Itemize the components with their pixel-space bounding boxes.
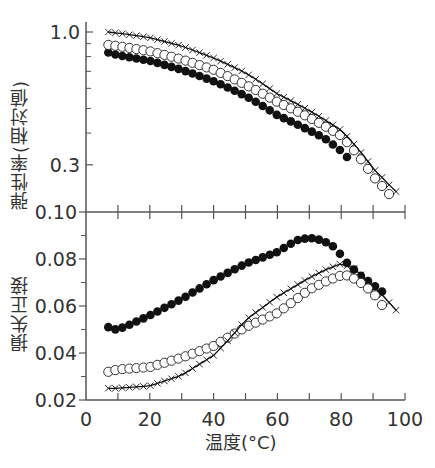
cross-marker [210, 352, 216, 358]
cross-marker [309, 273, 315, 279]
x-tick-label: 0 [80, 408, 92, 430]
cross-marker [253, 76, 259, 82]
filled-circle-marker [336, 146, 345, 155]
cross-marker [323, 266, 329, 272]
cross-marker [274, 294, 280, 300]
filled-circle-marker [329, 242, 338, 251]
cross-marker [260, 81, 266, 87]
cross-marker [245, 315, 251, 321]
top-panel-elastic-modulus [104, 29, 400, 199]
cross-marker [189, 47, 195, 53]
top-y-tick-label: 0.3 [50, 154, 80, 176]
cross-marker [253, 309, 259, 315]
open-circle-marker [363, 284, 372, 293]
cross-marker [393, 188, 399, 194]
bottom-y-tick-label: 0.04 [35, 342, 77, 364]
cross-marker [302, 277, 308, 283]
cross-marker [154, 380, 160, 386]
filled-circle-marker [322, 135, 331, 144]
x-tick-label: 40 [202, 408, 226, 430]
bottom-y-tick-label: 0.06 [35, 295, 77, 317]
axes: 0204060801001.00.30.100.080.060.040.02 [35, 21, 423, 430]
cross-marker [168, 376, 174, 382]
open-circle-marker [370, 174, 379, 183]
cross-marker [267, 299, 273, 305]
cross-marker [203, 357, 209, 363]
cross-marker [288, 286, 294, 292]
cross-marker [182, 370, 188, 376]
cross-marker [330, 264, 336, 270]
bottom-panel-loss-tangent [104, 234, 400, 391]
chart-canvas: 0204060801001.00.30.100.080.060.040.02 [0, 0, 435, 468]
cross-marker [288, 98, 294, 104]
cross-marker [224, 61, 230, 67]
x-tick-label: 20 [138, 408, 162, 430]
cross-marker [182, 44, 188, 50]
x-tick-label: 80 [329, 408, 353, 430]
open-circle-marker [377, 300, 386, 309]
cross-marker [203, 52, 209, 58]
cross-marker [295, 281, 301, 287]
bottom-y-tick-label: 0.08 [35, 248, 77, 270]
cross-marker [217, 58, 223, 64]
cross-marker [175, 373, 181, 379]
cross-marker [274, 90, 280, 96]
x-axis-label: 温度(°C) [205, 428, 277, 454]
bottom-y-tick-label: 0.10 [35, 201, 77, 223]
cross-marker [196, 49, 202, 55]
cross-marker [196, 361, 202, 367]
top-y-tick-label: 1.0 [50, 21, 80, 43]
filled-circle-marker [329, 140, 338, 149]
top-y-axis-label: 弾性率(相対値) [8, 60, 34, 210]
cross-marker [245, 72, 251, 78]
cross-marker [189, 365, 195, 371]
cross-marker [295, 101, 301, 107]
cross-marker [365, 158, 371, 164]
x-tick-label: 60 [265, 408, 289, 430]
bottom-y-tick-label: 0.02 [35, 389, 77, 411]
cross-marker [316, 270, 322, 276]
cross-marker [238, 68, 244, 74]
filled-circle-marker [343, 153, 352, 162]
cross-marker [231, 64, 237, 70]
open-circle-marker [377, 181, 386, 190]
cross-marker [161, 378, 167, 384]
cross-marker [260, 304, 266, 310]
bottom-y-axis-label: 損失正接 [8, 262, 34, 352]
open-circle-marker [384, 190, 393, 199]
cross-marker [267, 85, 273, 91]
open-circle-marker [370, 291, 379, 300]
cross-marker [386, 299, 392, 305]
cross-marker [210, 55, 216, 61]
cross-marker [281, 94, 287, 100]
cross-marker [281, 290, 287, 296]
cross-marker [393, 307, 399, 313]
x-tick-label: 100 [387, 408, 423, 430]
filled-circle-marker [336, 250, 345, 259]
